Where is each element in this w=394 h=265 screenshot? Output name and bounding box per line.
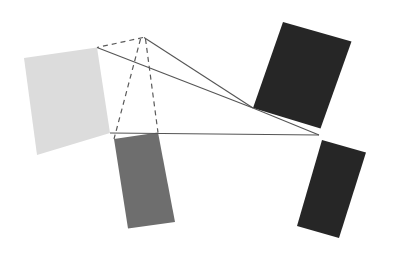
projection-diagram-svg bbox=[0, 0, 394, 265]
diagram-canvas bbox=[0, 0, 394, 265]
